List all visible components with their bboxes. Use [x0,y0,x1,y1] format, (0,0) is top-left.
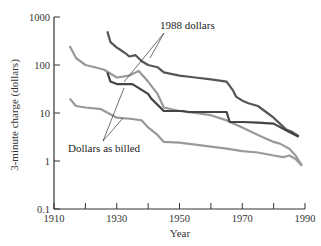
y-tick-label: 1000 [29,12,50,23]
series-line-2 [107,72,298,136]
y-axis-label: 3-minute charge (dollars) [8,59,21,171]
annotation-pointer [150,33,164,58]
x-tick-label: 1950 [169,213,190,224]
annotation-pointer [103,118,123,141]
annotation-dollars-as-billed: Dollars as billed [68,142,141,154]
annotation-pointer [103,88,124,141]
x-tick-label: 1910 [44,213,65,224]
annotation-1988-dollars: 1988 dollars [160,19,215,31]
chart: 3-minute charge (dollars) Year 0.1110100… [0,0,321,246]
annotation-pointer [124,33,164,82]
annotations: 1988 dollarsDollars as billed [68,19,215,154]
x-tick-label: 1970 [232,213,253,224]
series-line-3 [70,99,302,166]
x-axis-label: Year [170,227,191,239]
y-tick-label: 100 [34,60,50,71]
y-tick-label: 10 [40,108,51,119]
x-tick-label: 1990 [295,213,316,224]
y-tick-label: 1 [45,156,50,167]
y-axis-title: 3-minute charge (dollars) [8,59,21,171]
x-tick-label: 1930 [106,213,127,224]
